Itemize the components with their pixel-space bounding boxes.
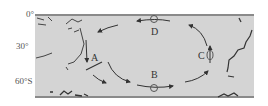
a-to-b-arrow [108, 62, 130, 82]
c-to-d-arrow [189, 25, 207, 46]
south-equatorial-west-arrow [98, 25, 118, 32]
label-c: C [198, 50, 205, 61]
current-d-marker [151, 16, 158, 23]
b-to-c-arrow [185, 71, 208, 82]
current-a-arrow [86, 40, 87, 62]
australia-coastline [36, 17, 84, 70]
current-d-arrow [137, 20, 170, 22]
antarctica-coastline [50, 91, 238, 97]
label-d: D [151, 26, 158, 37]
label-a: A [91, 52, 99, 63]
south-america-coastline [227, 18, 252, 77]
tasman-arrow [93, 75, 106, 83]
current-b-arrow [137, 85, 173, 87]
current-arrows [86, 20, 210, 88]
new-zealand-coastline [86, 62, 102, 70]
current-b-marker [151, 85, 158, 92]
label-b: B [151, 69, 158, 80]
current-diagram: A B C D [0, 0, 268, 106]
